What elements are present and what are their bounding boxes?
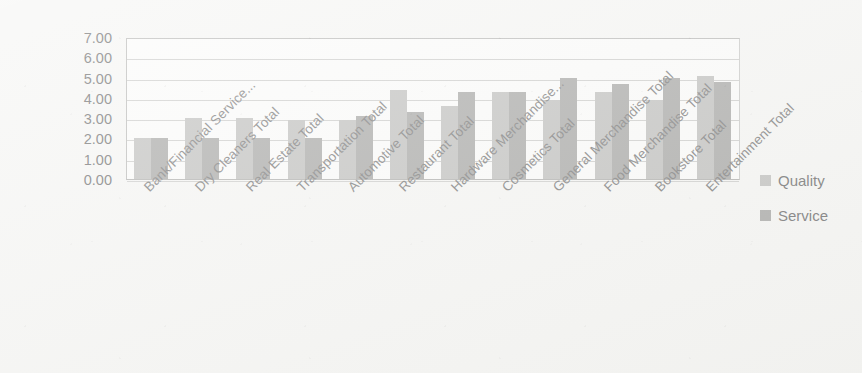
- legend-label: Service: [778, 208, 828, 223]
- x-tick-label: Transportation Total: [294, 99, 390, 195]
- legend-item[interactable]: Quality: [760, 172, 856, 188]
- bar-chart: 7.006.005.004.003.002.001.000.00 Bank/Fi…: [0, 0, 862, 373]
- x-axis: Bank/Financial Service...Dry Cleaners To…: [0, 0, 862, 373]
- legend-swatch-icon: [760, 175, 771, 186]
- legend-item[interactable]: Service: [760, 207, 856, 223]
- legend-swatch-icon: [760, 210, 771, 221]
- chart-legend: QualityService: [760, 172, 856, 242]
- legend-label: Quality: [778, 173, 825, 188]
